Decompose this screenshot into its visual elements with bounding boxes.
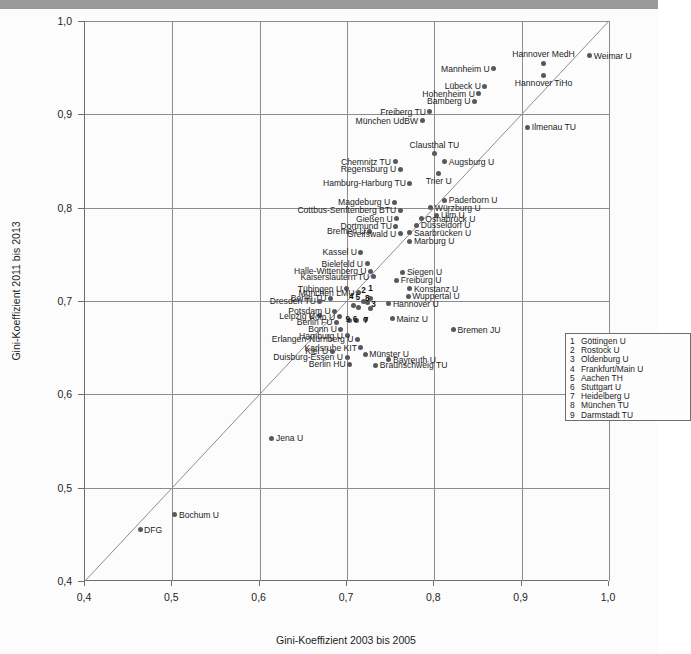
y-axis-label: Gini-Koeffizient 2011 bis 2013 (10, 31, 22, 551)
x-tick-label: 0,4 (64, 591, 104, 603)
y-tick-mark (78, 21, 84, 22)
y-tick-label: 0,7 (32, 295, 72, 307)
point-label: Clausthal TU (410, 141, 460, 150)
data-point[interactable] (427, 109, 432, 114)
data-point[interactable] (432, 151, 437, 156)
point-label: Hannover MedH (512, 50, 575, 59)
y-tick-label: 0,6 (32, 388, 72, 400)
point-label: Dresden TU (270, 297, 316, 306)
data-point[interactable] (358, 250, 363, 255)
x-tick-mark (259, 581, 260, 586)
point-label: Bamberg U (427, 97, 470, 106)
data-point[interactable] (371, 274, 376, 279)
data-point[interactable] (491, 66, 496, 71)
point-label: Augsburg U (449, 157, 494, 166)
point-label: Mainz U (396, 314, 428, 323)
point-number-4: 4 (349, 292, 354, 301)
point-number-1: 1 (368, 284, 373, 293)
y-tick-label: 0,9 (32, 108, 72, 120)
x-tick-mark (346, 581, 347, 586)
point-label: Marburg U (414, 237, 455, 246)
x-tick-mark (433, 581, 434, 586)
point-label: Greifswald U (347, 229, 396, 238)
plot-area: Weimar UHannover MedHHannover TiHoMannhe… (84, 21, 608, 581)
data-point[interactable] (373, 363, 378, 368)
data-point[interactable] (172, 512, 177, 517)
point-label: Braunschweig TU (380, 361, 448, 370)
top-gray-band (0, 0, 658, 9)
data-point[interactable] (476, 91, 481, 96)
data-point[interactable] (407, 181, 412, 186)
x-axis-label: Gini-Koeffizient 2003 bis 2005 (84, 634, 608, 646)
legend-item: 9Darmstadt TU (570, 411, 686, 420)
point-label: München UdBW (356, 116, 419, 125)
data-point[interactable] (407, 230, 412, 235)
point-label: Bochum U (179, 510, 219, 519)
point-number-9: 9 (345, 315, 350, 324)
data-point[interactable] (407, 239, 412, 244)
x-tick-mark (608, 581, 609, 586)
point-label: Hannover U (393, 299, 439, 308)
x-tick-label: 1,0 (588, 591, 628, 603)
point-label: Ilmenau TU (532, 123, 576, 132)
y-tick-label: 0,4 (32, 575, 72, 587)
x-tick-mark (171, 581, 172, 586)
data-point[interactable] (587, 53, 592, 58)
x-tick-label: 0,7 (326, 591, 366, 603)
point-label: Kassel U (323, 248, 357, 257)
data-point[interactable] (394, 278, 399, 283)
horizontal-gridline (85, 394, 609, 395)
vertical-gridline (609, 21, 610, 581)
data-point[interactable] (541, 73, 546, 78)
data-point[interactable] (451, 327, 456, 332)
data-point[interactable] (386, 301, 391, 306)
point-label: Berlin HU (309, 360, 346, 369)
data-point[interactable] (428, 205, 433, 210)
data-point[interactable] (398, 231, 403, 236)
x-tick-label: 0,6 (239, 591, 279, 603)
point-number-3: 3 (371, 300, 376, 309)
x-tick-mark (84, 581, 85, 586)
point-label: Hannover TiHo (515, 79, 572, 88)
data-point[interactable] (337, 314, 342, 319)
legend-box: 1Göttingen U2Rostock U3Oldenburg U4Frank… (565, 333, 691, 421)
data-point[interactable] (525, 125, 530, 130)
horizontal-gridline (85, 488, 609, 489)
point-label: Weimar U (594, 51, 632, 60)
data-point[interactable] (390, 316, 395, 321)
y-tick-mark (78, 488, 84, 489)
y-tick-mark (78, 301, 84, 302)
data-point[interactable] (355, 337, 360, 342)
data-point[interactable] (398, 208, 403, 213)
data-point[interactable] (472, 99, 477, 104)
data-point[interactable] (442, 159, 447, 164)
point-label: Bremen JU (458, 325, 501, 334)
data-point[interactable] (482, 84, 487, 89)
data-point[interactable] (328, 296, 333, 301)
point-label: Hamburg-Harburg TU (323, 179, 406, 188)
data-point[interactable] (541, 61, 546, 66)
point-label: Regensburg U (341, 165, 396, 174)
data-point[interactable] (398, 167, 403, 172)
data-point[interactable] (138, 527, 143, 532)
data-point[interactable] (269, 436, 274, 441)
data-point[interactable] (392, 200, 397, 205)
figure-container: Weimar UHannover MedHHannover TiHoMannhe… (0, 9, 658, 654)
data-point[interactable] (347, 362, 352, 367)
data-point[interactable] (394, 216, 399, 221)
data-point[interactable] (358, 345, 363, 350)
point-number-6: 6 (353, 315, 358, 324)
y-tick-mark (78, 114, 84, 115)
data-point-numbered[interactable] (356, 305, 361, 310)
data-point[interactable] (420, 118, 425, 123)
x-tick-label: 0,5 (151, 591, 191, 603)
point-number-5: 5 (355, 293, 360, 302)
point-number-8: 8 (365, 294, 370, 303)
data-point[interactable] (436, 171, 441, 176)
horizontal-gridline (85, 114, 609, 115)
point-number-7: 7 (364, 316, 369, 325)
legend-key: 9 (570, 411, 581, 420)
data-point[interactable] (400, 270, 405, 275)
data-point[interactable] (363, 352, 368, 357)
point-label: DFG (144, 525, 162, 534)
